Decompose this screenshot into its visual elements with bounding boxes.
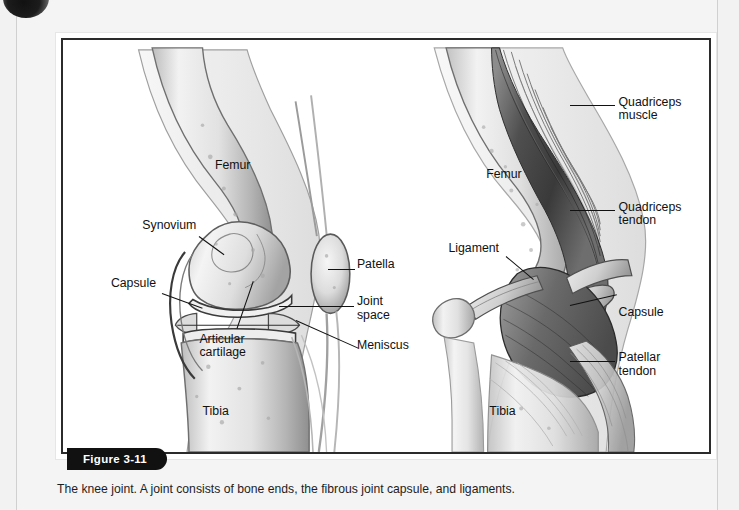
label-patellar-tendon: Patellar tendon (619, 351, 661, 379)
textbook-page: Femur Synovium Capsule Articular cartila… (0, 0, 739, 510)
figure-caption: The knee joint. A joint consists of bone… (57, 482, 707, 498)
leader-quadriceps-tendon (570, 210, 615, 211)
patellar-tendon-strand-2 (334, 311, 339, 452)
leader-patellar-tendon (570, 361, 615, 362)
label-meniscus: Meniscus (357, 339, 409, 353)
label-joint-space: Joint space (357, 295, 390, 323)
page-sheet: Femur Synovium Capsule Articular cartila… (16, 0, 718, 510)
page-corner-mark-icon (3, 0, 49, 18)
leader-quadriceps-muscle (570, 105, 615, 106)
figure-number-tab: Figure 3-11 (67, 448, 167, 470)
label-patella: Patella (357, 258, 395, 272)
leader-joint-space (279, 306, 353, 307)
leader-patella (328, 269, 355, 270)
fibula-shape (444, 337, 484, 452)
left-knee-svg (63, 40, 373, 452)
label-synovium: Synovium (94, 219, 196, 233)
label-ligament: Ligament (412, 242, 499, 256)
label-capsule-right: Capsule (619, 306, 664, 320)
label-femur-right: Femur (486, 168, 522, 182)
figure-frame: Femur Synovium Capsule Articular cartila… (55, 32, 717, 460)
figure-number-label: Figure 3-11 (83, 453, 147, 465)
proximal-bone-fragment (433, 299, 475, 338)
label-tibia-left: Tibia (203, 405, 229, 419)
figure-image-area: Femur Synovium Capsule Articular cartila… (61, 38, 711, 454)
patella-shape (311, 234, 350, 313)
illustration-left-knee-joint: Femur Synovium Capsule Articular cartila… (63, 40, 373, 452)
label-quadriceps-muscle: Quadriceps muscle (619, 96, 682, 124)
label-quadriceps-tendon: Quadriceps tendon (619, 201, 682, 229)
label-articular-cartilage: Articular cartilage (199, 333, 245, 361)
label-tibia-right: Tibia (489, 405, 515, 419)
label-capsule-left: Capsule (69, 277, 156, 291)
label-femur-left: Femur (215, 159, 251, 173)
